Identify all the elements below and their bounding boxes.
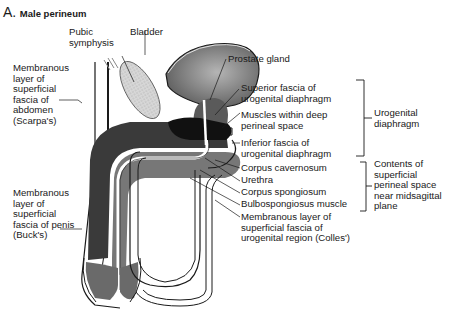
- label-colles-fascia: Membranous layer of superficial fascia o…: [241, 212, 350, 244]
- label-line: plane: [374, 201, 442, 212]
- label-line: Inferior fascia of: [241, 138, 331, 149]
- label-corpus-spongiosum: Corpus spongiosum: [241, 187, 326, 198]
- group-urogenital-diaphragm: Urogenital diaphragm: [374, 108, 419, 129]
- label-line: (Buck's): [13, 230, 74, 241]
- group-superficial-perineal-space: Contents of superficial perineal space n…: [374, 159, 442, 212]
- label-bucks-fascia: Membranous layer of superficial fascia o…: [13, 188, 74, 241]
- label-bladder: Bladder: [130, 27, 163, 38]
- corpus-spongiosum-shape: [112, 152, 240, 275]
- label-line: Membranous: [13, 188, 74, 199]
- label-line: Superior fascia of: [241, 83, 331, 94]
- label-bulbospongiosus: Bulbospongiosus muscle: [241, 199, 347, 210]
- label-line: Contents of: [374, 159, 442, 170]
- label-pubic-symphysis: Pubic symphysis: [69, 27, 114, 48]
- pubic-symphysis-shape: [104, 55, 168, 124]
- label-line: symphysis: [69, 38, 114, 49]
- label-line: (Scarpa's): [13, 116, 69, 127]
- label-line: Pubic: [69, 27, 114, 38]
- label-line: diaphragm: [374, 119, 419, 130]
- label-scarpas-fascia: Membranous layer of superficial fascia o…: [13, 63, 69, 127]
- label-line: perineal space: [241, 121, 327, 132]
- label-line: Muscles within deep: [241, 110, 327, 121]
- brackets: [356, 80, 372, 211]
- label-inferior-fascia: Inferior fascia of urogenital diaphragm: [241, 138, 331, 159]
- label-deep-perineal-muscles: Muscles within deep perineal space: [241, 110, 327, 131]
- label-line: Membranous: [13, 63, 69, 74]
- label-line: urogenital diaphragm: [241, 149, 331, 160]
- label-urethra: Urethra: [241, 175, 273, 186]
- label-line: Membranous layer of: [241, 212, 350, 223]
- label-prostate-gland: Prostate gland: [228, 54, 290, 65]
- label-line: urogenital region (Colles'): [241, 233, 350, 244]
- label-line: urogenital diaphragm: [241, 94, 331, 105]
- label-line: Urogenital: [374, 108, 419, 119]
- label-superior-fascia: Superior fascia of urogenital diaphragm: [241, 83, 331, 104]
- label-corpus-cavernosum: Corpus cavernosum: [241, 163, 327, 174]
